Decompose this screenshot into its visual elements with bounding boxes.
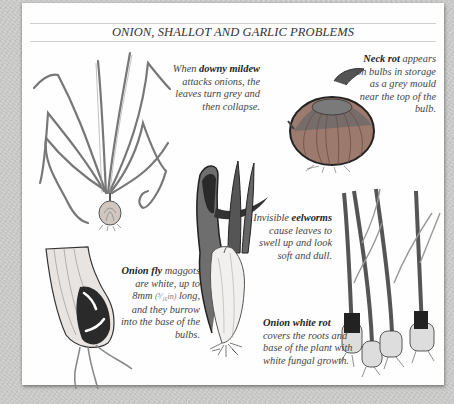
caption-text: Invisible bbox=[253, 212, 291, 223]
caption-text: When bbox=[173, 63, 199, 74]
downy-mildew-onion-plant-illustration bbox=[18, 43, 178, 233]
title-rule-bottom bbox=[30, 41, 436, 42]
onion-fly-caption: Onion fly maggots are white, up to 8mm (… bbox=[118, 265, 200, 342]
caption-text: cause leaves to swell up and look soft a… bbox=[259, 225, 332, 261]
page-card: ONION, SHALLOT AND GARLIC PROBLEMS When … bbox=[22, 3, 444, 385]
white-rot-term: Onion white rot bbox=[263, 317, 331, 328]
downy-mildew-caption: When downy mildew attacks onions, the le… bbox=[162, 63, 260, 113]
eelworms-caption: Invisible eelworms cause leaves to swell… bbox=[252, 212, 332, 262]
caption-text: attacks onions, the leaves turn grey and… bbox=[175, 76, 260, 112]
neck-rot-caption: Neck rot appears on bulbs in storage as … bbox=[354, 53, 436, 116]
title-rule-top bbox=[30, 23, 436, 24]
caption-fraction: (⁵⁄₁₆in) bbox=[155, 292, 176, 301]
caption-text: covers the roots and base of the plant w… bbox=[263, 330, 352, 366]
downy-mildew-term: downy mildew bbox=[199, 63, 260, 74]
onion-fly-term: Onion fly bbox=[121, 265, 162, 276]
white-rot-caption: Onion white rot covers the roots and bas… bbox=[263, 317, 353, 367]
page-title: ONION, SHALLOT AND GARLIC PROBLEMS bbox=[22, 25, 444, 40]
neck-rot-term: Neck rot bbox=[363, 53, 400, 64]
eelworms-term: eelworms bbox=[292, 212, 332, 223]
